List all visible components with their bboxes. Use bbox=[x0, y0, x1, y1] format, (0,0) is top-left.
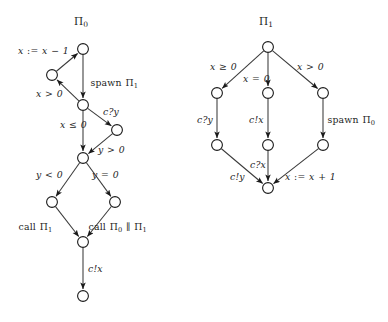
edge-label-l-call-0-1: call Π0 ∥ Π1 bbox=[88, 222, 147, 234]
node-pi0-n1[interactable] bbox=[47, 70, 58, 81]
node-pi0-n8[interactable] bbox=[78, 291, 89, 302]
edge-label-r-spawn-0: spawn Π0 bbox=[327, 115, 375, 127]
edge-label-l-xgt0: x > 0 bbox=[36, 89, 63, 98]
edge-label-l-assign-dec: x := x − 1 bbox=[18, 46, 69, 55]
node-pi0-n2[interactable] bbox=[78, 100, 89, 111]
edge-pi0-n5-n7 bbox=[56, 207, 79, 237]
edge-label-l-ylt0: y < 0 bbox=[36, 170, 63, 179]
edge-label-l-xle0: x ≤ 0 bbox=[60, 120, 87, 129]
node-pi1-m1[interactable] bbox=[212, 88, 223, 99]
node-pi0-n6[interactable] bbox=[110, 197, 121, 208]
edge-label-r-incr: x := x + 1 bbox=[285, 172, 336, 181]
edge-label-r-cqy: c?y bbox=[197, 115, 213, 124]
node-pi1-m2[interactable] bbox=[263, 88, 274, 99]
node-pi1-m6[interactable] bbox=[318, 140, 329, 151]
node-pi0-n5[interactable] bbox=[47, 197, 58, 208]
node-pi0-n0[interactable] bbox=[78, 44, 89, 55]
node-pi1-m4[interactable] bbox=[212, 140, 223, 151]
edge-label-l-spawn-1: spawn Π1 bbox=[90, 78, 138, 90]
edge-label-r-xgt0: x > 0 bbox=[297, 62, 324, 71]
node-pi0-n4[interactable] bbox=[78, 153, 89, 164]
node-pi1-m0[interactable] bbox=[263, 42, 274, 53]
edge-label-r-cbx: c!x bbox=[249, 115, 264, 124]
figure-canvas: Π0 Π1 x := x − 1spawn Π1x > 0c?yx ≤ 0y >… bbox=[0, 0, 388, 322]
edge-label-l-cbx: c!x bbox=[88, 264, 103, 273]
edge-label-l-cqy: c?y bbox=[103, 107, 119, 116]
node-pi1-m7[interactable] bbox=[263, 183, 274, 194]
node-pi0-n3[interactable] bbox=[112, 125, 123, 136]
edge-label-l-ygt0: y > 0 bbox=[98, 145, 125, 154]
node-pi1-m3[interactable] bbox=[318, 88, 329, 99]
edge-pi0-n1-n0 bbox=[56, 53, 77, 71]
edge-label-l-yeq0: y = 0 bbox=[92, 170, 119, 179]
node-pi0-n7[interactable] bbox=[78, 237, 89, 248]
edge-label-l-call-1: call Π1 bbox=[18, 222, 52, 234]
edge-label-r-xeq0: x = 0 bbox=[243, 74, 270, 83]
edge-label-r-cby: c!y bbox=[230, 172, 245, 181]
edge-label-r-cqx: c?x bbox=[250, 160, 266, 169]
edge-label-r-xge0: x ≥ 0 bbox=[210, 62, 237, 71]
node-pi1-m5[interactable] bbox=[263, 140, 274, 151]
